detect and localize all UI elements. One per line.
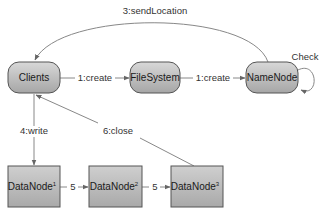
edge-label-check: Check [292, 51, 319, 62]
check-loop-arrow [298, 68, 314, 91]
edge-pipeline-1: 5 [60, 181, 88, 192]
edge-filesystem-namenode: 1:create [180, 72, 245, 83]
edge-label-close: 6:close [103, 125, 133, 136]
node-label-datanode-2: DataNode [90, 181, 135, 192]
edge-label-write: 4:write [20, 125, 48, 136]
node-label-datanode-3: DataNode [171, 181, 216, 192]
svg-text:DataNode3: DataNode3 [171, 181, 220, 192]
node-clients: Clients [8, 62, 60, 93]
edge-label-create-2: 1:create [196, 72, 230, 83]
edge-close: 6:close [36, 95, 194, 166]
edge-label-pipeline-2: 5 [152, 181, 157, 192]
node-namenode: NameNode [246, 62, 298, 93]
edge-clients-filesystem: 1:create [60, 72, 129, 83]
edge-label-pipeline-1: 5 [70, 181, 75, 192]
hdfs-write-flow-diagram: 3:sendLocation Check 1:create 1:create 4… [0, 0, 325, 219]
edge-label-create-1: 1:create [78, 72, 112, 83]
edge-send-location: 3:sendLocation [35, 5, 268, 62]
svg-text:DataNode1: DataNode1 [8, 181, 57, 192]
node-datanode-3: DataNode3 [171, 166, 223, 207]
edge-label-send-location: 3:sendLocation [123, 5, 187, 16]
node-label-namenode: NameNode [247, 72, 298, 83]
node-filesystem: FileSystem [130, 62, 180, 93]
svg-text:DataNode2: DataNode2 [90, 181, 139, 192]
edge-write: 4:write [20, 94, 48, 165]
send-location-arc [35, 23, 268, 62]
node-label-datanode-1: DataNode [8, 181, 53, 192]
node-label-clients: Clients [19, 72, 50, 83]
node-datanode-2: DataNode2 [89, 166, 142, 207]
node-label-filesystem: FileSystem [130, 72, 179, 83]
edge-pipeline-2: 5 [142, 181, 170, 192]
node-datanode-1: DataNode1 [8, 166, 60, 207]
